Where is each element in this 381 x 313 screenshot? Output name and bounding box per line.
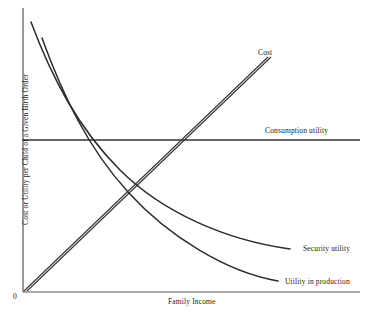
origin-label: 0: [13, 292, 17, 301]
series-label-consumption-utility: Consumption utility: [265, 126, 328, 135]
series-cost-line: [24, 57, 271, 291]
series-utility-in-production-curve: [42, 38, 278, 281]
series-label-utility-in-production: Utility in production: [285, 277, 350, 286]
series-label-cost: Cost: [258, 48, 272, 57]
chart-plot-area: [0, 0, 381, 313]
y-axis-title: Cost or Utility per Child of a Given Bir…: [21, 40, 30, 260]
series-security-utility-curve: [31, 22, 290, 249]
chart-figure: Cost Consumption utility Security utilit…: [0, 0, 381, 313]
series-label-security-utility: Security utility: [303, 244, 350, 253]
x-axis-title: Family Income: [168, 297, 216, 306]
